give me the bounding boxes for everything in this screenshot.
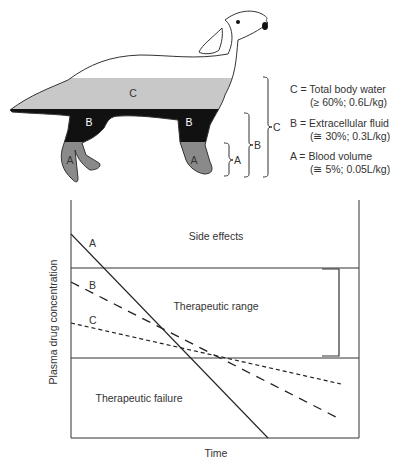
label-a-front: A — [66, 154, 73, 166]
region-therapeutic-range: Therapeutic range — [173, 300, 258, 312]
bracket-a — [224, 143, 233, 176]
label-b-front: B — [85, 116, 92, 128]
x-axis-label: Time — [205, 447, 228, 459]
ear — [199, 28, 222, 54]
bracket-c — [263, 77, 272, 177]
nose — [262, 22, 268, 30]
series-c-label: C — [89, 314, 97, 326]
bracket-label-a: A — [234, 154, 241, 166]
legend-detail-c: (≥ 60%; 0.6L/kg) — [290, 96, 387, 109]
legend-item-a: A = Blood volume (≅ 5%; 0.05L/kg) — [290, 150, 390, 176]
label-b-back: B — [185, 116, 192, 128]
series-c-line — [71, 323, 341, 384]
figure-canvas: C B B A A A B C A B C Side effects Thera… — [0, 0, 396, 463]
legend-item-b: B = Extracellular fluid (≅ 30%; 0.3L/kg) — [290, 117, 390, 143]
region-c — [0, 78, 280, 109]
label-c-body: C — [129, 87, 137, 99]
bracket-b — [244, 113, 253, 177]
eye — [236, 20, 240, 24]
legend-detail-b: (≅ 30%; 0.3L/kg) — [290, 130, 390, 143]
bracket-label-b: B — [254, 139, 261, 151]
y-axis-label: Plasma drug concentration — [47, 259, 59, 384]
label-a-back: A — [190, 154, 197, 166]
series-b-label: B — [89, 279, 96, 291]
legend-label-c: C = Total body water — [290, 83, 386, 95]
region-side-effects: Side effects — [189, 230, 244, 242]
therapeutic-range-bracket — [322, 269, 339, 356]
region-therapeutic-failure: Therapeutic failure — [96, 392, 183, 404]
bracket-label-c: C — [273, 121, 281, 133]
legend-item-c: C = Total body water (≥ 60%; 0.6L/kg) — [290, 83, 387, 109]
region-a — [0, 142, 280, 192]
volume-brackets — [224, 77, 272, 177]
series-a-line — [71, 234, 268, 438]
series-a-label: A — [89, 237, 96, 249]
concentration-chart: A B C Side effects Therapeutic range The… — [47, 200, 359, 459]
legend-detail-a: (≅ 5%; 0.05L/kg) — [290, 163, 390, 176]
legend-label-a: A = Blood volume — [290, 150, 372, 162]
legend-label-b: B = Extracellular fluid — [290, 117, 389, 129]
